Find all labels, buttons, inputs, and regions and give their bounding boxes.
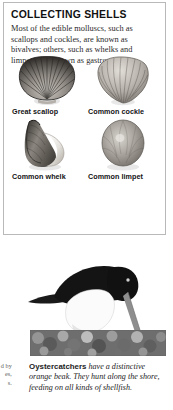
margin-clipped-line-3: s. xyxy=(0,379,12,387)
limpet-shell-photo xyxy=(90,116,156,172)
shell-item-common-whelk: Common whelk xyxy=(9,116,85,181)
shell-label: Common whelk xyxy=(9,172,85,181)
shell-label: Common limpet xyxy=(85,172,161,181)
whelk-shell-photo xyxy=(14,116,80,172)
shell-label: Great scallop xyxy=(9,107,85,116)
margin-clipped-line-1: d by xyxy=(0,362,12,370)
shell-row: Common whelk xyxy=(9,116,161,181)
shell-item-common-limpet: Common limpet xyxy=(85,116,161,181)
cockle-shell-photo xyxy=(90,55,156,106)
margin-clipped-text: d by es, s. xyxy=(0,362,12,387)
scallop-shell-photo xyxy=(14,55,80,106)
shell-specimen-grid: Great scallop xyxy=(9,55,161,181)
margin-clipped-line-2: es, xyxy=(0,370,12,378)
collecting-shells-panel: COLLECTING SHELLS Most of the edible mol… xyxy=(3,2,166,235)
figure-caption: Oystercatchers have a distinctive orange… xyxy=(29,362,163,393)
caption-lead-term: Oystercatchers xyxy=(29,362,86,371)
shell-item-common-cockle: Common cockle xyxy=(85,55,161,116)
shell-label: Common cockle xyxy=(85,107,161,116)
shell-item-great-scallop: Great scallop xyxy=(9,55,85,116)
panel-title: COLLECTING SHELLS xyxy=(11,9,158,20)
shell-row: Great scallop xyxy=(9,55,161,116)
rocky-shore-photo xyxy=(30,330,166,356)
